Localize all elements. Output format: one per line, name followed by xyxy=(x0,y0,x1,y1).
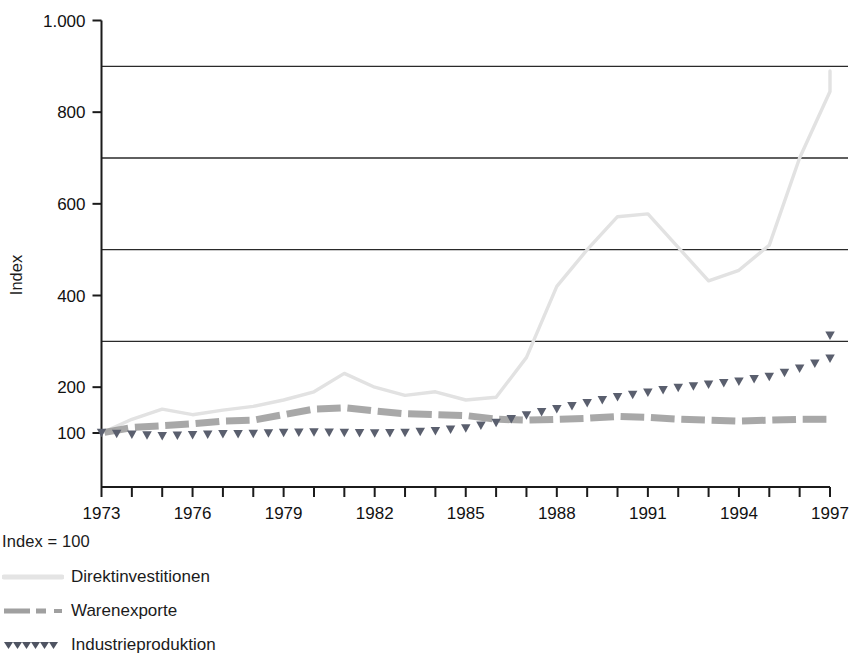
x-axis-tick-label: 1982 xyxy=(356,504,394,523)
series-dash xyxy=(712,420,736,421)
series-dash xyxy=(196,421,220,423)
series-marker xyxy=(825,332,835,341)
y-axis-tick-label: 800 xyxy=(57,103,85,122)
series-marker xyxy=(370,429,380,438)
legend-item-industrieproduktion: Industrieproduktion xyxy=(0,628,851,662)
series-dash xyxy=(621,417,645,418)
series-marker xyxy=(795,365,805,374)
legend-label-direktinvestitionen: Direktinvestitionen xyxy=(71,567,210,587)
y-axis-title: Index xyxy=(7,254,25,295)
legend-note: Index = 100 xyxy=(2,532,851,551)
series-marker xyxy=(825,355,835,364)
series-marker xyxy=(476,421,486,430)
series-dash xyxy=(560,418,584,419)
series-marker xyxy=(385,429,395,438)
series-dash xyxy=(317,408,341,409)
series-marker xyxy=(598,396,608,405)
y-axis-tick-label: 1.000 xyxy=(43,12,86,31)
x-axis-tick-label: 1976 xyxy=(174,504,212,523)
series-direktinvestitionen xyxy=(102,71,831,433)
series-dash xyxy=(469,416,493,419)
series-marker xyxy=(188,431,198,440)
series-marker xyxy=(309,428,319,437)
series-marker xyxy=(689,382,699,391)
legend-swatch-warenexporte xyxy=(2,604,64,618)
x-axis-tick-label: 1997 xyxy=(811,504,849,523)
series-marker xyxy=(400,429,410,438)
legend-swatch-direktinvestitionen xyxy=(2,570,64,584)
series-group xyxy=(97,71,835,441)
series-marker xyxy=(431,427,441,436)
series-marker xyxy=(279,429,289,438)
x-axis-tick-label: 1973 xyxy=(83,504,121,523)
y-axis-tick-label: 600 xyxy=(57,195,85,214)
series-marker xyxy=(552,405,562,414)
series-marker xyxy=(203,431,213,440)
series-dash xyxy=(256,415,280,419)
series-line xyxy=(102,71,831,433)
series-marker xyxy=(780,369,790,378)
series-marker xyxy=(264,429,274,438)
series-marker xyxy=(537,408,547,417)
series-marker xyxy=(765,373,775,382)
legend-label-industrieproduktion: Industrieproduktion xyxy=(71,635,216,655)
plot-area: 1.000800600400200100Index197319761979198… xyxy=(0,0,851,530)
series-marker xyxy=(567,402,577,411)
chart-page: 1.000800600400200100Index197319761979198… xyxy=(0,0,851,671)
series-marker xyxy=(749,375,759,384)
x-axis-tick-label: 1988 xyxy=(538,504,576,523)
series-marker xyxy=(158,432,168,441)
series-marker xyxy=(446,426,456,435)
series-dash xyxy=(772,419,796,420)
series-marker xyxy=(127,431,137,440)
y-axis: 1.000800600400200100Index xyxy=(7,12,102,488)
legend-label-warenexporte: Warenexporte xyxy=(71,601,177,621)
series-dash xyxy=(438,415,462,416)
series-dash xyxy=(347,408,371,411)
series-marker xyxy=(142,431,152,440)
series-marker xyxy=(582,399,592,408)
series-dash xyxy=(681,419,705,420)
series-dash xyxy=(226,420,250,421)
series-dash xyxy=(590,417,614,418)
legend-item-warenexporte: Warenexporte xyxy=(0,594,851,628)
series-marker xyxy=(810,360,820,369)
series-dash xyxy=(742,420,766,421)
y-axis-tick-label: 100 xyxy=(57,424,85,443)
series-marker xyxy=(294,429,304,438)
gridlines xyxy=(102,66,849,341)
series-dash xyxy=(165,424,189,425)
series-marker xyxy=(249,430,259,439)
line-chart: 1.000800600400200100Index197319761979198… xyxy=(0,0,851,530)
series-marker xyxy=(719,379,729,388)
legend-swatch-industrieproduktion xyxy=(2,638,64,652)
series-dash xyxy=(135,426,159,427)
series-dash xyxy=(530,419,554,420)
x-axis-tick-label: 1994 xyxy=(720,504,758,523)
series-marker xyxy=(491,419,501,428)
series-marker xyxy=(643,388,653,397)
x-axis: 197319761979198219851988199119941997 xyxy=(83,487,849,523)
x-axis-tick-label: 1979 xyxy=(265,504,303,523)
chart-legend: Index = 100 Direktinvestitionen Warenexp… xyxy=(0,532,851,662)
series-marker xyxy=(355,429,365,438)
series-marker xyxy=(461,424,471,433)
series-marker xyxy=(658,386,668,395)
series-dash xyxy=(378,411,402,413)
series-marker xyxy=(218,430,228,439)
series-marker xyxy=(173,432,183,441)
series-marker xyxy=(613,393,623,402)
series-marker xyxy=(674,384,684,393)
x-axis-tick-label: 1985 xyxy=(447,504,485,523)
series-marker xyxy=(734,377,744,386)
series-marker xyxy=(324,429,334,438)
x-axis-tick-label: 1991 xyxy=(629,504,667,523)
y-axis-tick-label: 200 xyxy=(57,378,85,397)
series-marker xyxy=(704,381,714,390)
series-marker xyxy=(233,430,243,439)
series-dash xyxy=(408,414,432,415)
legend-item-direktinvestitionen: Direktinvestitionen xyxy=(0,560,851,594)
series-marker xyxy=(416,428,426,437)
y-axis-tick-label: 400 xyxy=(57,287,85,306)
series-dash xyxy=(651,418,675,419)
